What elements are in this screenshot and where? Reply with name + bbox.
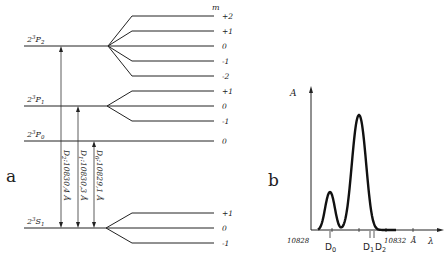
m-header: m (212, 3, 220, 12)
m-value-label: 0 (222, 102, 227, 111)
y-axis-label: A (289, 88, 297, 98)
arrowhead-down-icon (76, 222, 80, 228)
x-axis-arrow-icon (437, 228, 444, 232)
term-label: 23P1 (26, 94, 44, 105)
sublevel-branch (108, 46, 132, 76)
m-value-label: -1 (222, 239, 229, 248)
level-s1: 23S1+10-1 (24, 209, 233, 248)
x-tick-label: 10828 (287, 237, 310, 245)
level-p2: 23P2+2+10-1-2 (24, 12, 233, 81)
m-value-label: 0 (222, 137, 227, 146)
sublevel-branch (108, 31, 132, 46)
transition-d1: D1:10830,3 Å (76, 106, 88, 228)
energy-levels: 23P2+2+10-1-223P1+10-123P0023S1+10-1 (24, 12, 233, 248)
term-label: 23S1 (26, 216, 45, 227)
transition-d0: D0:10829,1 Å (92, 141, 104, 228)
x-tick-label: 10832 (384, 237, 407, 245)
sublevel-branch (108, 16, 132, 46)
term-label: 23P0 (26, 129, 45, 140)
absorption-curve (318, 115, 396, 230)
m-value-label: -1 (222, 117, 229, 126)
term-label: 23P2 (26, 34, 45, 45)
x-unit-label: Å (410, 236, 416, 245)
x-axis-label: λ (427, 236, 434, 246)
arrowhead-down-icon (92, 222, 96, 228)
m-value-label: +1 (222, 87, 233, 96)
arrowhead-up-icon (59, 46, 63, 52)
arrowhead-down-icon (59, 222, 63, 228)
panel-a-letter: a (6, 166, 16, 186)
sublevel-branch (107, 91, 132, 106)
m-value-label: +1 (222, 209, 233, 218)
arrowhead-up-icon (92, 141, 96, 147)
sublevel-branch (106, 228, 132, 243)
absorption-chart: AλÅ1082810832D0D1D2 (287, 86, 444, 254)
level-p0: 23P00 (24, 129, 227, 146)
transition-label: D0:10829,1 Å (94, 149, 104, 201)
m-value-label: -2 (222, 72, 230, 81)
sublevel-branch (106, 213, 132, 228)
arrowhead-up-icon (76, 106, 80, 112)
panel-b-letter: b (268, 170, 279, 190)
sublevel-branch (107, 106, 132, 121)
level-p1: 23P1+10-1 (24, 87, 233, 126)
y-axis-arrow-icon (309, 86, 313, 93)
zeeman-diagram: a m 23P2+2+10-1-223P1+10-123P0023S1+10-1… (0, 0, 446, 255)
m-value-label: 0 (222, 224, 227, 233)
m-value-label: +2 (222, 12, 233, 21)
m-value-label: -1 (222, 57, 229, 66)
transition-d2: D2:10830,4 Å (59, 46, 71, 228)
transitions: D2:10830,4 ÅD1:10830,3 ÅD0:10829,1 Å (59, 46, 104, 228)
transition-label: D1:10830,3 Å (78, 149, 88, 201)
m-value-label: 0 (222, 42, 227, 51)
transition-label: D2:10830,4 Å (61, 149, 71, 201)
marker-label-d0: D0 (325, 242, 336, 254)
m-value-label: +1 (222, 27, 233, 36)
marker-label-d1: D1 (363, 242, 374, 254)
sublevel-branch (108, 46, 132, 61)
